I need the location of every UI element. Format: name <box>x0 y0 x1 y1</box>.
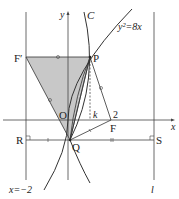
label-parabola-eq: y²=8x <box>117 21 142 32</box>
label-f-prime: F′ <box>14 52 23 64</box>
point-q <box>69 139 72 142</box>
label-two: 2 <box>113 109 118 120</box>
label-r: R <box>16 134 24 146</box>
label-y: y <box>59 9 65 20</box>
label-p: P <box>93 52 99 64</box>
point-p <box>89 56 92 59</box>
diagram-canvas: y C y²=8x F′ P O k 2 F x R Q S x=−2 l <box>0 0 179 199</box>
label-k: k <box>93 109 98 120</box>
label-c: C <box>87 9 95 21</box>
label-f: F <box>110 122 116 134</box>
label-x: x <box>170 121 176 132</box>
right-angle-s <box>150 136 154 140</box>
y-axis-arrow <box>67 11 70 15</box>
right-angle-r <box>26 136 30 140</box>
label-s: S <box>156 134 162 146</box>
label-q: Q <box>72 141 80 153</box>
label-directrix: x=−2 <box>8 184 32 195</box>
label-l: l <box>151 184 154 195</box>
fq-line <box>70 120 111 140</box>
label-o: O <box>59 109 67 121</box>
